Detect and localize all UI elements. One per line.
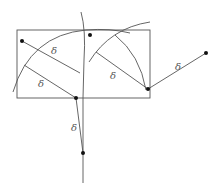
point-A: [20, 39, 24, 43]
geometric-diagram: δ δ δ δ δ: [0, 0, 218, 194]
delta-label: δ: [71, 122, 77, 133]
delta-label: δ: [175, 61, 181, 72]
delta-label: δ: [110, 70, 116, 81]
small-arc: [89, 22, 150, 62]
delta-label: δ: [38, 78, 44, 89]
delta-label: δ: [51, 45, 57, 56]
right-arc: [115, 35, 146, 90]
large-arc: [13, 29, 130, 92]
point-F: [81, 151, 85, 155]
vertical-line: [81, 12, 85, 183]
segment-B: [96, 52, 148, 89]
point-E: [74, 96, 78, 100]
segment-EF: [76, 98, 83, 153]
point-B: [88, 33, 92, 37]
point-C: [146, 87, 150, 91]
point-D: [204, 51, 208, 55]
segment-parallel: [24, 65, 76, 98]
